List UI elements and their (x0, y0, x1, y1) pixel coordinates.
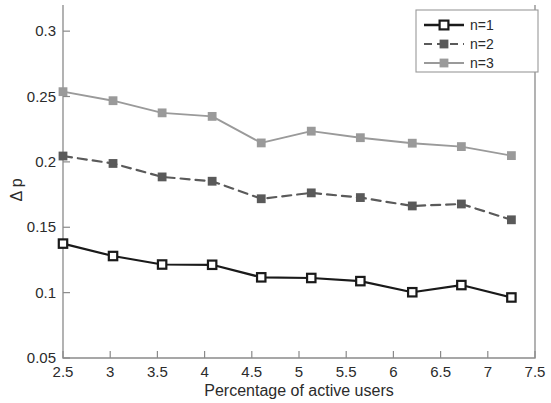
x-tick-label: 4.5 (241, 363, 262, 380)
series-marker (507, 293, 515, 301)
series-marker (59, 152, 66, 159)
series-marker (458, 143, 465, 150)
y-axis-title-group: Δ p (8, 178, 25, 201)
legend-marker-sample (440, 40, 447, 47)
x-tick-label: 3.5 (147, 363, 168, 380)
x-tick-label: 4 (200, 363, 208, 380)
series-marker (308, 189, 315, 196)
series-marker (409, 202, 416, 209)
x-tick-label: 6.5 (430, 363, 451, 380)
legend-label: n=2 (470, 36, 494, 52)
legend-label: n=3 (470, 55, 494, 71)
series-marker (257, 273, 265, 281)
chart-legend[interactable]: n=1n=2n=3 (416, 10, 538, 72)
series-marker (158, 260, 166, 268)
series-marker (208, 261, 216, 269)
series-marker (357, 194, 364, 201)
series-marker (357, 134, 364, 141)
series-marker (159, 109, 166, 116)
x-axis-title: Percentage of active users (204, 382, 393, 399)
y-tick-label: 0.25 (27, 88, 56, 105)
series-marker (258, 139, 265, 146)
x-tick-label: 3 (106, 363, 114, 380)
series-marker (59, 88, 66, 95)
series-marker (409, 140, 416, 147)
legend-label: n=1 (470, 17, 494, 33)
x-tick-label: 2.5 (53, 363, 74, 380)
y-tick-label: 0.3 (35, 22, 56, 39)
x-tick-label: 5.5 (336, 363, 357, 380)
series-marker (258, 195, 265, 202)
x-tick-label: 6 (389, 363, 397, 380)
series-marker (307, 274, 315, 282)
y-tick-label: 0.1 (35, 284, 56, 301)
series-marker (458, 200, 465, 207)
x-tick-label: 5 (295, 363, 303, 380)
series-marker (109, 97, 116, 104)
x-axis-title-group: Percentage of active users (204, 382, 393, 399)
series-marker (356, 277, 364, 285)
series-marker (59, 239, 67, 247)
series-marker (508, 216, 515, 223)
series-marker (109, 160, 116, 167)
series-marker (209, 113, 216, 120)
series-marker (508, 152, 515, 159)
series-marker (457, 281, 465, 289)
series-marker (159, 173, 166, 180)
series-marker (408, 288, 416, 296)
series-marker (109, 252, 117, 260)
chart-figure: 0.050.10.150.20.250.3 2.533.544.555.566.… (0, 0, 551, 403)
x-tick-label: 7.5 (525, 363, 546, 380)
y-tick-label: 0.15 (27, 218, 56, 235)
y-tick-label: 0.2 (35, 153, 56, 170)
series-marker (209, 178, 216, 185)
series-marker (308, 128, 315, 135)
legend-marker-sample (440, 21, 449, 30)
legend-marker-sample (440, 59, 447, 66)
y-axis-title: Δ p (8, 178, 25, 201)
x-tick-label: 7 (484, 363, 492, 380)
